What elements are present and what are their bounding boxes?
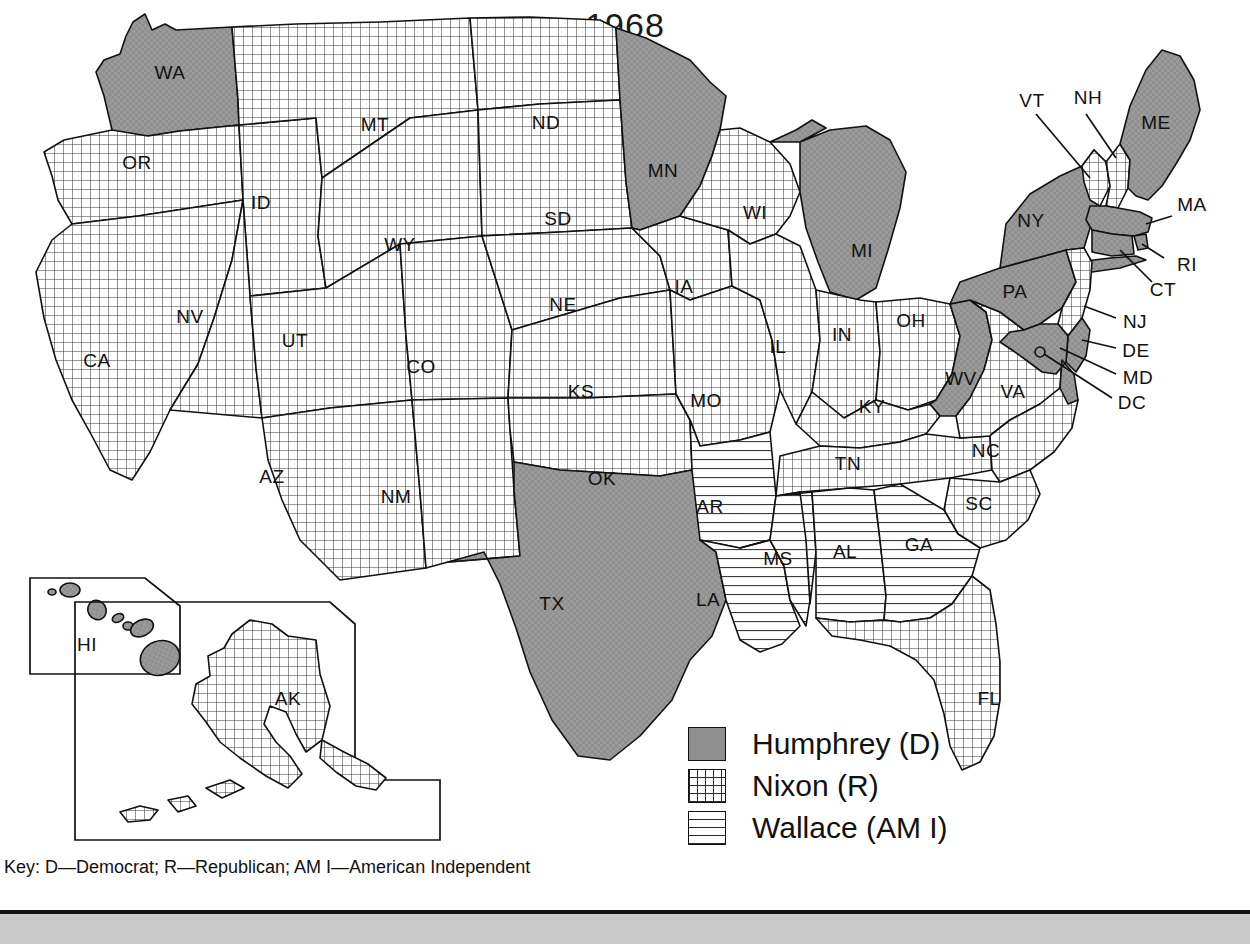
- legend-item-humphrey[interactable]: Humphrey (D): [688, 724, 948, 764]
- state-label-GA: GA: [905, 534, 933, 555]
- state-label-MD: MD: [1123, 367, 1154, 388]
- state-OK[interactable]: [508, 394, 692, 476]
- state-label-NY: NY: [1017, 210, 1044, 231]
- state-label-AK: AK: [275, 688, 301, 709]
- state-label-OR: OR: [122, 152, 152, 173]
- leader-line-NH: [1086, 114, 1116, 158]
- state-label-NV: NV: [176, 306, 203, 327]
- state-label-AR: AR: [696, 496, 723, 517]
- state-label-FL: FL: [977, 688, 1000, 709]
- state-label-AL: AL: [833, 541, 857, 562]
- legend-label-wallace: Wallace (AM I): [752, 813, 948, 843]
- leader-line-RI: [1142, 244, 1164, 258]
- state-label-NJ: NJ: [1123, 311, 1147, 332]
- state-label-KY: KY: [859, 396, 885, 417]
- state-label-ND: ND: [532, 112, 560, 133]
- state-label-OK: OK: [588, 468, 616, 489]
- state-DC[interactable]: [1035, 347, 1045, 357]
- state-label-RI: RI: [1177, 254, 1197, 275]
- map-legend: Humphrey (D) Nixon (R) Wallace (AM I): [688, 724, 948, 850]
- state-label-CA: CA: [83, 350, 110, 371]
- state-label-TN: TN: [835, 453, 861, 474]
- state-label-MI: MI: [851, 240, 873, 261]
- legend-swatch-nixon: [688, 769, 726, 803]
- state-label-VT: VT: [1019, 90, 1044, 111]
- leader-line-NJ: [1084, 306, 1116, 318]
- state-label-CT: CT: [1150, 279, 1176, 300]
- state-label-WY: WY: [384, 234, 416, 255]
- state-NM[interactable]: [412, 398, 520, 568]
- state-label-PA: PA: [1003, 281, 1028, 302]
- legend-label-humphrey: Humphrey (D): [752, 729, 940, 759]
- state-label-TX: TX: [539, 593, 564, 614]
- state-label-MS: MS: [763, 548, 793, 569]
- state-label-NC: NC: [972, 440, 1000, 461]
- election-map-figure: 1968: [0, 0, 1250, 944]
- state-label-MT: MT: [361, 114, 389, 135]
- leader-line-VT: [1036, 114, 1090, 178]
- legend-item-nixon[interactable]: Nixon (R): [688, 766, 948, 806]
- hawaii-islands[interactable]: [48, 583, 185, 681]
- state-label-WI: WI: [743, 202, 767, 223]
- state-label-LA: LA: [696, 589, 720, 610]
- state-ND[interactable]: [470, 17, 620, 110]
- state-RI[interactable]: [1134, 234, 1148, 250]
- state-label-IA: IA: [675, 276, 694, 297]
- legend-label-nixon: Nixon (R): [752, 771, 879, 801]
- state-label-ID: ID: [251, 192, 271, 213]
- us-election-map: WA OR CA ID NV MT WY UT AZ CO NM ND SD N…: [0, 0, 1250, 944]
- state-label-NH: NH: [1074, 87, 1102, 108]
- legend-swatch-wallace: [688, 811, 726, 845]
- key-text: Key: D—Democrat; R—Republican; AM I—Amer…: [4, 857, 530, 878]
- state-label-NE: NE: [549, 294, 576, 315]
- state-label-AZ: AZ: [259, 466, 284, 487]
- state-label-MN: MN: [648, 160, 679, 181]
- state-label-DE: DE: [1122, 340, 1149, 361]
- state-label-OH: OH: [896, 310, 926, 331]
- state-label-ME: ME: [1141, 112, 1171, 133]
- state-label-SC: SC: [965, 493, 992, 514]
- state-label-CO: CO: [406, 356, 436, 377]
- state-label-VA: VA: [1001, 381, 1026, 402]
- legend-item-wallace[interactable]: Wallace (AM I): [688, 808, 948, 848]
- state-label-IL: IL: [770, 336, 787, 357]
- state-label-DC: DC: [1118, 392, 1146, 413]
- state-label-WA: WA: [155, 62, 186, 83]
- state-label-SD: SD: [544, 208, 571, 229]
- footer-band: [0, 914, 1250, 944]
- state-label-MO: MO: [690, 390, 722, 411]
- state-label-MA: MA: [1177, 194, 1207, 215]
- state-label-IN: IN: [832, 324, 852, 345]
- state-label-KS: KS: [568, 381, 594, 402]
- legend-swatch-humphrey: [688, 727, 726, 761]
- state-label-NM: NM: [381, 486, 412, 507]
- state-label-WV: WV: [945, 368, 977, 389]
- state-label-HI: HI: [77, 634, 97, 655]
- state-label-UT: UT: [282, 330, 308, 351]
